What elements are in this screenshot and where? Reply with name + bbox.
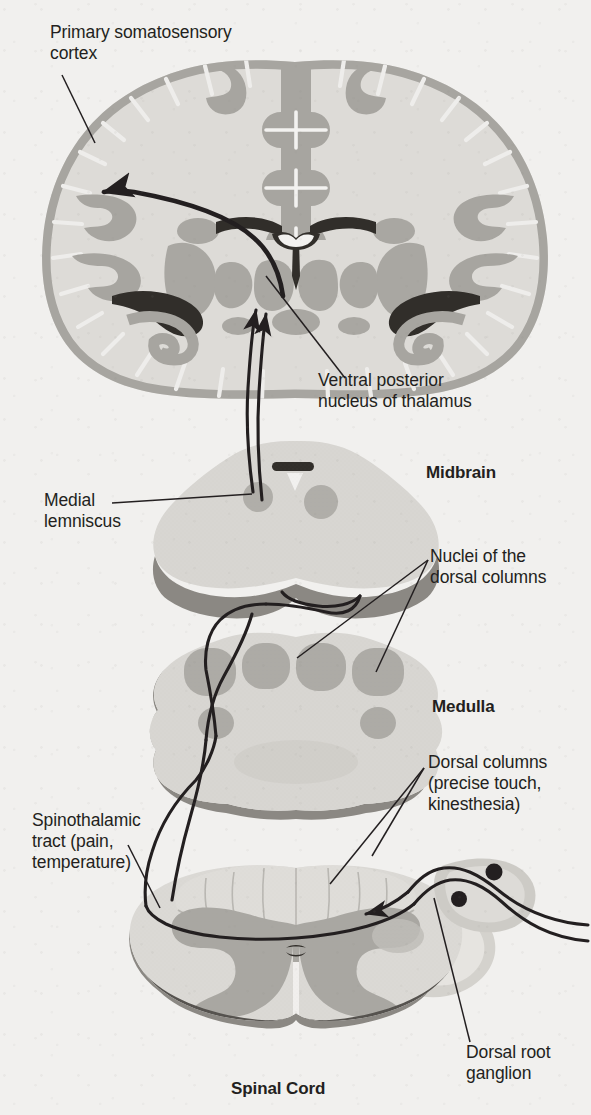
label-spinothalamic-tract: Spinothalamic tract (pain, temperature)	[32, 810, 141, 873]
ganglion-cell-body-lower	[451, 891, 467, 907]
label-medial-lemniscus: Medial lemniscus	[44, 490, 121, 532]
label-primary-somatosensory-cortex: Primary somatosensory cortex	[50, 22, 232, 64]
section-title-spinal-cord: Spinal Cord	[231, 1078, 325, 1099]
section-title-midbrain: Midbrain	[426, 462, 496, 483]
leader-somatosensory-cortex	[62, 75, 95, 143]
ganglion-cell-body-upper	[486, 864, 503, 881]
label-ventral-posterior-nucleus: Ventral posterior nucleus of thalamus	[318, 370, 472, 412]
somatosensory-pathway-figure: Primary somatosensory cortex Ventral pos…	[0, 0, 591, 1115]
label-nuclei-of-dorsal-columns: Nuclei of the dorsal columns	[430, 546, 546, 588]
label-dorsal-root-ganglion: Dorsal root ganglion	[466, 1042, 551, 1084]
label-dorsal-columns: Dorsal columns (precise touch, kinesthes…	[428, 752, 547, 815]
cerebrum-coronal-section	[42, 60, 548, 399]
section-title-medulla: Medulla	[432, 696, 495, 717]
